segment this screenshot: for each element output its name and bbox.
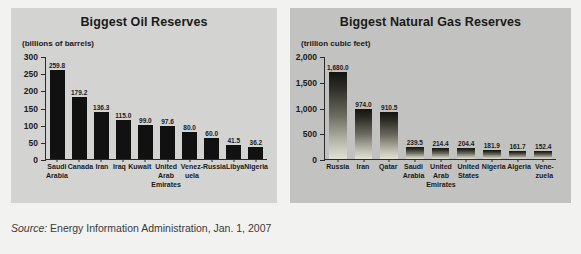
gas-reserves-panel: Biggest Natural Gas Reserves (trillion c…	[290, 8, 571, 203]
gas-y-tick	[320, 160, 325, 161]
oil-bar-value-label: 97.6	[161, 118, 174, 125]
gas-x-tick-label-line: Arab	[426, 171, 456, 180]
oil-bar: 41.5	[226, 145, 241, 159]
oil-y-tick-label: 200	[24, 86, 38, 96]
gas-y-tick-label: 1,000	[296, 104, 317, 114]
oil-bar-slot: 99.0	[134, 57, 156, 159]
oil-bar: 80.0	[182, 132, 197, 159]
oil-bar-value-label: 80.0	[183, 124, 196, 131]
oil-bar-slot: 97.6	[156, 57, 178, 159]
oil-x-tick-label: Nigeria	[244, 162, 268, 189]
oil-bar-slot: 80.0	[179, 57, 201, 159]
oil-x-tick-label-line: Saudi	[46, 162, 68, 171]
gas-x-tick-label-line: Saudi	[401, 162, 426, 171]
oil-x-tick-label-line: Iran	[93, 162, 111, 171]
gas-x-tick-label-line: United	[456, 162, 481, 171]
gas-bar: 239.5	[406, 147, 423, 159]
oil-bar-group: 259.8179.2136.3115.099.097.680.060.041.5…	[46, 57, 267, 159]
gas-chart-title: Biggest Natural Gas Reserves	[290, 15, 571, 29]
gas-bar: 974.0	[355, 109, 372, 159]
oil-y-tick-label: 300	[24, 52, 38, 62]
gas-x-tick-label: Qatar	[376, 162, 401, 189]
gas-bar-value-label: 204.4	[458, 140, 474, 147]
oil-x-tick-label-line: Arabia	[46, 171, 68, 180]
gas-x-tick-label: SaudiArabia	[401, 162, 426, 189]
gas-x-tick-label-line: Iran	[350, 162, 375, 171]
gas-bar-value-label: 152.4	[535, 143, 551, 150]
oil-x-tick-label: Kuwait	[128, 162, 151, 189]
gas-x-tick-label: Nigeria	[481, 162, 506, 189]
gas-bar: 214.4	[432, 148, 449, 159]
oil-x-tick-label-line: Libya	[226, 162, 244, 171]
oil-bar-slot: 41.5	[223, 57, 245, 159]
oil-x-tick-labels: SaudiArabiaCanadaIranIraqKuwaitUnitedAra…	[46, 162, 268, 189]
gas-bar-value-label: 974.0	[355, 101, 371, 108]
oil-x-tick-label: Iraq	[111, 162, 129, 189]
gas-bar-value-label: 239.5	[407, 139, 423, 146]
gas-x-tick-label-line: Russia	[325, 162, 350, 171]
oil-x-tick-label: Iran	[93, 162, 111, 189]
oil-bar: 136.3	[94, 112, 109, 159]
gas-y-tick-label: 0	[312, 155, 317, 165]
gas-bar-group: 1,680.0974.0910.5239.5214.4204.4181.9161…	[325, 57, 556, 159]
oil-y-tick-label: 0	[33, 155, 38, 165]
gas-bar-slot: 152.4	[530, 57, 556, 159]
gas-x-tick-label: Russia	[325, 162, 350, 189]
oil-bar-value-label: 259.8	[49, 62, 65, 69]
source-label: Source:	[11, 222, 47, 234]
oil-x-tick-label-line: Iraq	[111, 162, 129, 171]
gas-x-tick-label-line: Algeria	[506, 162, 531, 171]
oil-bar: 115.0	[116, 120, 131, 159]
oil-y-tick	[41, 160, 46, 161]
gas-x-tick-label-line: States	[456, 171, 481, 180]
gas-x-tick-label-line: zuela	[532, 171, 557, 180]
oil-x-tick-label-line: Emirates	[151, 180, 181, 189]
gas-x-tick-labels: RussiaIranQatarSaudiArabiaUnitedArabEmir…	[325, 162, 557, 189]
oil-bar: 97.6	[160, 126, 175, 160]
gas-axis-units: (trillion cubic feet)	[301, 39, 370, 48]
gas-x-tick-label-line: Qatar	[376, 162, 401, 171]
gas-bar-slot: 974.0	[351, 57, 377, 159]
oil-y-tick-label: 150	[24, 104, 38, 114]
oil-bar-value-label: 115.0	[115, 112, 131, 119]
oil-x-tick-label-line: Nigeria	[244, 162, 268, 171]
oil-bar-slot: 259.8	[46, 57, 68, 159]
oil-bar-slot: 36.2	[245, 57, 267, 159]
gas-bar-value-label: 161.7	[509, 143, 525, 150]
gas-x-tick-label-line: Emirates	[426, 180, 456, 189]
gas-bar-value-label: 181.9	[484, 142, 500, 149]
gas-x-tick-label: UnitedArabEmirates	[426, 162, 456, 189]
gas-bar-slot: 1,680.0	[325, 57, 351, 159]
oil-x-tick-label-line: Kuwait	[128, 162, 151, 171]
chart-figure: Biggest Oil Reserves (billions of barrel…	[0, 0, 581, 254]
gas-bar-slot: 204.4	[453, 57, 479, 159]
gas-x-tick-label: Iran	[350, 162, 375, 189]
gas-bar-slot: 239.5	[402, 57, 428, 159]
gas-x-tick-label-line: United	[426, 162, 456, 171]
source-text: Energy Information Administration, Jan. …	[47, 222, 271, 234]
gas-bar-slot: 161.7	[505, 57, 531, 159]
gas-y-tick-label: 1,500	[296, 78, 317, 88]
oil-axis-units: (billions of barrels)	[22, 39, 94, 48]
gas-bar: 204.4	[457, 148, 474, 159]
oil-reserves-panel: Biggest Oil Reserves (billions of barrel…	[11, 8, 277, 203]
oil-bar: 60.0	[204, 138, 219, 159]
oil-x-tick-label: Russia	[203, 162, 226, 189]
gas-bar-value-label: 214.4	[432, 140, 448, 147]
oil-bar-value-label: 60.0	[205, 130, 218, 137]
oil-bar: 36.2	[248, 147, 263, 159]
gas-x-tick-label: UnitedStates	[456, 162, 481, 189]
oil-bar-value-label: 36.2	[250, 139, 263, 146]
gas-bar-value-label: 910.5	[381, 104, 397, 111]
oil-bar: 179.2	[72, 97, 87, 159]
gas-y-tick-label: 500	[303, 129, 317, 139]
oil-y-tick-label: 50	[29, 138, 38, 148]
oil-x-tick-label-line: Canada	[68, 162, 93, 171]
oil-x-tick-label: SaudiArabia	[46, 162, 68, 189]
gas-x-tick-label-line: Nigeria	[481, 162, 506, 171]
source-note: Source: Energy Information Administratio…	[11, 222, 271, 234]
gas-bar-slot: 181.9	[479, 57, 505, 159]
gas-bar: 1,680.0	[329, 72, 346, 159]
gas-x-tick-label: Vene-zuela	[532, 162, 557, 189]
oil-x-tick-label: Libya	[226, 162, 244, 189]
